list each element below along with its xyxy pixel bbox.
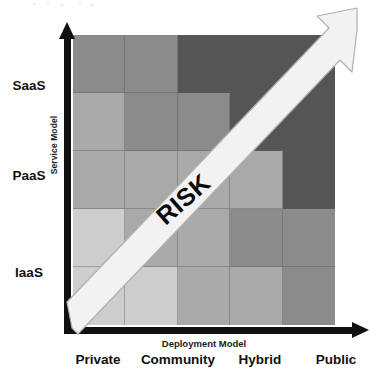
heatmap-cell — [73, 35, 125, 93]
heatmap-cell — [73, 209, 125, 267]
heatmap-cell — [283, 267, 335, 325]
heatmap-cell — [178, 93, 230, 151]
heatmap-cell — [178, 35, 230, 93]
scan-artifact — [28, 1, 98, 7]
heatmap-cell — [73, 267, 125, 325]
heatmap-cell — [73, 93, 125, 151]
risk-matrix-figure: Service Model Deployment Model SaaSPaaSI… — [0, 0, 387, 385]
heatmap-cell — [283, 35, 335, 93]
y-axis-tick-saas: SaaS — [0, 78, 58, 93]
heatmap-cell — [178, 267, 230, 325]
heatmap-cell — [230, 151, 282, 209]
x-axis-tick-community: Community — [128, 352, 228, 367]
x-axis-arrowhead-icon — [352, 322, 369, 338]
heatmap-cell — [283, 209, 335, 267]
heatmap-cell — [283, 151, 335, 209]
heatmap-cell — [230, 267, 282, 325]
heatmap-cell — [73, 151, 125, 209]
heatmap-cell — [230, 93, 282, 151]
y-axis-tick-paas: PaaS — [0, 168, 58, 183]
heatmap-cell — [230, 209, 282, 267]
heatmap-cell — [283, 93, 335, 151]
x-axis-line — [64, 327, 355, 334]
heatmap-cell — [178, 209, 230, 267]
heatmap-cell — [125, 267, 177, 325]
x-axis-tick-private: Private — [60, 352, 136, 367]
y-axis-arrowhead-icon — [59, 22, 75, 39]
heatmap-cell — [125, 35, 177, 93]
y-axis-line — [64, 38, 71, 330]
heatmap-cell — [125, 93, 177, 151]
heatmap-cell — [230, 35, 282, 93]
y-axis-tick-iaas: IaaS — [0, 265, 58, 280]
x-axis-tick-hybrid: Hybrid — [222, 352, 298, 367]
x-axis-title: Deployment Model — [73, 338, 335, 349]
x-axis-tick-public: Public — [298, 352, 374, 367]
y-axis-title: Service Model — [49, 85, 59, 205]
